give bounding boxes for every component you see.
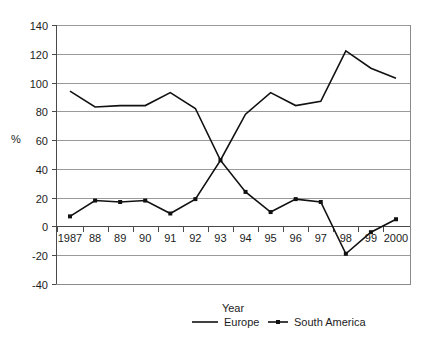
data-point-marker [118, 200, 122, 204]
y-tick-label: 40 [36, 164, 48, 176]
x-tick-label: 2000 [384, 232, 408, 244]
series-line [70, 51, 396, 160]
legend-marker-swatch [276, 320, 280, 324]
x-tick-label: 94 [239, 232, 251, 244]
data-point-marker [394, 217, 398, 221]
data-point-marker [93, 199, 97, 203]
y-tick-label: 140 [30, 20, 48, 32]
x-tick-label: 91 [164, 232, 176, 244]
y-tick-label: -40 [32, 279, 48, 291]
data-series-layer [68, 51, 398, 256]
data-point-marker [193, 197, 197, 201]
plot-frame [56, 25, 411, 285]
y-tick-label: 20 [36, 193, 48, 205]
legend-label: Europe [224, 316, 259, 328]
chart-canvas: 140120100806040200-20-40 198788899091929… [0, 0, 421, 343]
data-point-marker [168, 211, 172, 215]
x-tick-label: 92 [189, 232, 201, 244]
data-point-marker [294, 197, 298, 201]
gridlines [56, 26, 410, 285]
chart-legend: EuropeSouth America [192, 316, 366, 328]
data-point-marker [269, 210, 273, 214]
y-axis-label: % [11, 133, 21, 145]
data-point-marker [68, 214, 72, 218]
series-europe [70, 51, 396, 160]
data-point-marker [369, 230, 373, 234]
y-tick-label: 0 [42, 221, 48, 233]
data-point-marker [344, 252, 348, 256]
x-axis-label: Year [222, 302, 245, 314]
x-tick-label: 95 [264, 232, 276, 244]
y-tick-label: 120 [30, 49, 48, 61]
x-tick-label: 1987 [58, 232, 82, 244]
y-axis-ticks [52, 26, 56, 285]
x-tick-label: 96 [290, 232, 302, 244]
x-tick-label: 89 [114, 232, 126, 244]
y-tick-label: 60 [36, 135, 48, 147]
x-axis-tick-labels: 19878889909192939495969798992000 [58, 232, 408, 244]
y-tick-label: -20 [32, 250, 48, 262]
x-tick-label: 97 [315, 232, 327, 244]
y-axis-tick-labels: 140120100806040200-20-40 [30, 20, 48, 291]
legend-label: South America [294, 316, 366, 328]
x-tick-label: 88 [89, 232, 101, 244]
x-tick-label: 93 [214, 232, 226, 244]
data-point-marker [218, 158, 222, 162]
x-tick-label: 98 [340, 232, 352, 244]
y-tick-label: 80 [36, 106, 48, 118]
data-point-marker [244, 190, 248, 194]
x-tick-label: 90 [139, 232, 151, 244]
data-point-marker [319, 200, 323, 204]
data-point-marker [143, 199, 147, 203]
y-tick-label: 100 [30, 78, 48, 90]
line-chart: 140120100806040200-20-40 198788899091929… [0, 0, 421, 343]
